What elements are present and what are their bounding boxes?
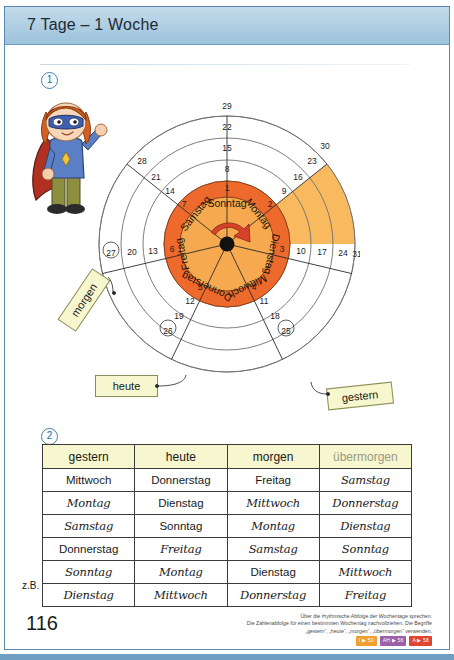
table-cell-answer[interactable]: Samstag: [319, 469, 411, 492]
table-row: SonntagMontagDienstagMittwoch: [43, 561, 412, 584]
table-cell-answer[interactable]: Montag: [227, 515, 319, 538]
svg-text:8: 8: [225, 164, 230, 174]
svg-text:31: 31: [352, 249, 360, 259]
svg-text:23: 23: [307, 156, 317, 166]
svg-text:3: 3: [280, 244, 285, 254]
table-header-heute: heute: [135, 445, 227, 469]
table-cell-answer[interactable]: Mittwoch: [227, 492, 319, 515]
svg-text:13: 13: [148, 246, 158, 256]
table-cell-answer[interactable]: Mittwoch: [135, 584, 227, 607]
svg-text:21: 21: [151, 172, 161, 182]
table-header-row: gesternheutemorgenübermorgen: [43, 445, 412, 469]
svg-text:16: 16: [293, 172, 303, 182]
bottom-rule: [0, 654, 454, 660]
task-number-2: 2: [41, 428, 58, 445]
footer-note: Über die rhythmische Abfolge der Wochent…: [212, 613, 432, 646]
footer-badge: AH ▶ 56: [380, 636, 407, 645]
table-cell-answer[interactable]: Freitag: [135, 538, 227, 561]
table-cell-given[interactable]: Freitag: [227, 469, 319, 492]
table-row: MontagDienstagMittwochDonnerstag: [43, 492, 412, 515]
svg-text:12: 12: [185, 296, 195, 306]
table-cell-answer[interactable]: Dienstag: [43, 584, 135, 607]
footer-note-line-2: Die Zahlenabfolge für einen bestimmten W…: [212, 620, 432, 627]
svg-text:24: 24: [338, 248, 348, 258]
svg-text:28: 28: [137, 156, 147, 166]
footer-badge: I ▶ 50: [356, 636, 377, 645]
svg-text:7: 7: [182, 199, 187, 209]
footer-badge: A ▶ 58: [409, 636, 432, 645]
table-row: SamstagSonntagMontagDienstag: [43, 515, 412, 538]
table-cell-answer[interactable]: Donnerstag: [227, 584, 319, 607]
table-cell-answer[interactable]: Samstag: [227, 538, 319, 561]
table-row: DienstagMittwochDonnerstagFreitag: [43, 584, 412, 607]
table-cell-given[interactable]: Dienstag: [135, 492, 227, 515]
table-cell-given[interactable]: Donnerstag: [43, 538, 135, 561]
table-header-übermorgen: übermorgen: [319, 445, 411, 469]
svg-text:15: 15: [222, 143, 232, 153]
footer-badges: I ▶ 50AH ▶ 56A ▶ 58: [212, 636, 432, 645]
callout-heute[interactable]: heute: [95, 375, 158, 397]
table-header-gestern: gestern: [43, 445, 135, 469]
svg-text:30: 30: [320, 141, 330, 151]
table-cell-answer[interactable]: Sonntag: [43, 561, 135, 584]
svg-text:29: 29: [222, 101, 232, 111]
weekday-table: gesternheutemorgenübermorgenMittwochDonn…: [42, 444, 412, 607]
page-number: 116: [26, 612, 58, 635]
svg-text:5: 5: [198, 282, 203, 292]
page-header: 7 Tage – 1 Woche: [5, 7, 449, 45]
table-cell-answer[interactable]: Donnerstag: [319, 492, 411, 515]
table-header-morgen: morgen: [227, 445, 319, 469]
svg-text:4: 4: [252, 282, 257, 292]
footer-note-line-3: „gestern“, „heute“, „morgen“, „übermorge…: [212, 628, 432, 635]
table-row: DonnerstagFreitagSamstagSonntag: [43, 538, 412, 561]
table-cell-given[interactable]: Mittwoch: [43, 469, 135, 492]
svg-text:20: 20: [127, 247, 137, 257]
svg-text:2: 2: [268, 199, 273, 209]
page-title: 7 Tage – 1 Woche: [27, 16, 159, 34]
svg-text:19: 19: [174, 311, 184, 321]
table-cell-given[interactable]: Dienstag: [227, 561, 319, 584]
table-cell-given[interactable]: Sonntag: [135, 515, 227, 538]
footer-note-line-1: Über die rhythmische Abfolge der Wochent…: [212, 613, 432, 620]
table-cell-answer[interactable]: Sonntag: [319, 538, 411, 561]
weekday-wheel[interactable]: Sonntag Montag Dienstag Mittwoch Donners…: [94, 74, 360, 414]
svg-text:6: 6: [170, 244, 175, 254]
table-cell-answer[interactable]: Samstag: [43, 515, 135, 538]
table-row: MittwochDonnerstagFreitagSamstag: [43, 469, 412, 492]
svg-text:Sonntag: Sonntag: [207, 197, 246, 209]
task-number-1: 1: [41, 72, 58, 89]
svg-text:18: 18: [270, 311, 280, 321]
example-label: z.B.: [22, 580, 39, 591]
svg-text:11: 11: [260, 296, 269, 306]
svg-text:17: 17: [317, 247, 327, 257]
svg-text:10: 10: [296, 246, 306, 256]
task-divider: [40, 64, 410, 65]
table-cell-answer[interactable]: Freitag: [319, 584, 411, 607]
table-cell-given[interactable]: Donnerstag: [135, 469, 227, 492]
svg-text:9: 9: [282, 186, 287, 196]
table-cell-answer[interactable]: Mittwoch: [319, 561, 411, 584]
svg-text:14: 14: [165, 186, 175, 196]
table-cell-answer[interactable]: Dienstag: [319, 515, 411, 538]
svg-text:22: 22: [222, 122, 232, 132]
svg-text:1: 1: [225, 183, 230, 193]
worksheet-page: 7 Tage – 1 Woche 1 2: [0, 0, 454, 660]
table-cell-answer[interactable]: Montag: [135, 561, 227, 584]
table-cell-answer[interactable]: Montag: [43, 492, 135, 515]
